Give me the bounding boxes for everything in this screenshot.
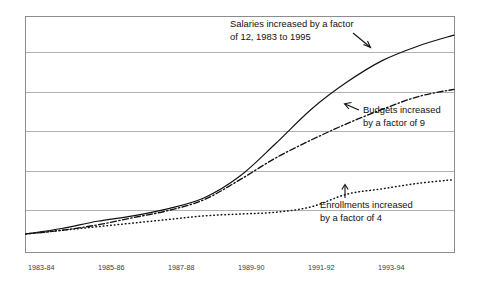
x-tick-label-4: 1991-92: [308, 263, 334, 272]
x-tick-label-2: 1987-88: [168, 263, 194, 272]
annotation-salaries-line2: of 12, 1983 to 1995: [230, 31, 311, 42]
plot-area-frame: [26, 17, 455, 253]
annotation-budgets-line1: Budgets increased: [363, 104, 441, 115]
x-tick-label-3: 1989-90: [238, 263, 264, 272]
x-tick-label-5: 1993-94: [378, 263, 404, 272]
chart-container: Salaries increased by a factor of 12, 19…: [0, 0, 477, 288]
x-tick-label-1: 1985-86: [98, 263, 124, 272]
annotation-enrollments-line2: by a factor of 4: [320, 212, 382, 223]
annotation-salaries-line1: Salaries increased by a factor: [230, 18, 354, 29]
annotation-enrollments-line1: Enrollments increased: [320, 199, 413, 210]
annotation-budgets-line2: by a factor of 9: [363, 117, 425, 128]
line-chart: Salaries increased by a factor of 12, 19…: [0, 0, 477, 288]
x-tick-label-0: 1983-84: [28, 263, 54, 272]
